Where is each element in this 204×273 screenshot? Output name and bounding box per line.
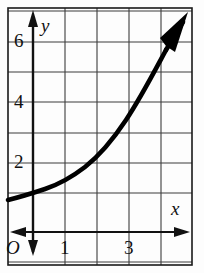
graph-figure: 6 4 2 1 3 x y O xyxy=(0,0,204,273)
x-axis-label: x xyxy=(171,199,179,218)
y-tick-label-6: 6 xyxy=(14,31,24,50)
origin-label: O xyxy=(6,238,20,257)
x-tick-label-3: 3 xyxy=(124,238,134,257)
y-axis-label: y xyxy=(41,16,49,35)
plot-background xyxy=(8,8,192,265)
coordinate-grid-plot xyxy=(0,0,204,273)
y-tick-label-2: 2 xyxy=(14,152,24,171)
y-tick-label-4: 4 xyxy=(14,92,24,111)
x-tick-label-1: 1 xyxy=(60,238,70,257)
